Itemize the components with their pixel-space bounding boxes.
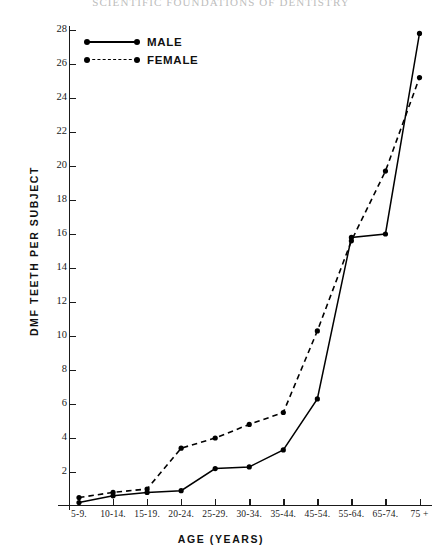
data-point bbox=[417, 75, 422, 80]
data-point bbox=[110, 493, 115, 498]
data-point bbox=[247, 422, 252, 427]
legend-label-female: FEMALE bbox=[147, 54, 198, 66]
data-point bbox=[281, 410, 286, 415]
data-point bbox=[315, 396, 320, 401]
series-points-female bbox=[76, 75, 422, 500]
data-point bbox=[247, 464, 252, 469]
data-point bbox=[213, 435, 218, 440]
data-point bbox=[383, 169, 388, 174]
x-axis-title: AGE (YEARS) bbox=[0, 533, 442, 545]
series-points-male bbox=[76, 31, 422, 505]
data-point bbox=[179, 446, 184, 451]
series-line-female bbox=[79, 78, 420, 498]
legend-item-female: FEMALE bbox=[84, 51, 198, 69]
data-point bbox=[383, 231, 388, 236]
line-chart: 246810121416182022242628 5-9.10-14.15-19… bbox=[0, 0, 442, 559]
y-axis-title: DMF TEETH PER SUBJECT bbox=[28, 121, 40, 381]
legend-swatch-solid-line-icon bbox=[84, 36, 140, 48]
legend-swatch-dashed-line-icon bbox=[84, 54, 140, 66]
legend-label-male: MALE bbox=[147, 36, 182, 48]
data-point bbox=[281, 447, 286, 452]
data-point bbox=[145, 490, 150, 495]
data-point bbox=[315, 328, 320, 333]
data-point bbox=[349, 235, 354, 240]
legend: MALE FEMALE bbox=[84, 33, 198, 69]
data-point bbox=[76, 495, 81, 500]
legend-item-male: MALE bbox=[84, 33, 198, 51]
data-point bbox=[417, 31, 422, 36]
chart-page: SCIENTIFIC FOUNDATIONS OF DENTISTRY 2468… bbox=[0, 0, 442, 559]
data-point bbox=[179, 488, 184, 493]
series-layer bbox=[0, 0, 442, 559]
series-line-male bbox=[79, 33, 420, 502]
data-point bbox=[76, 500, 81, 505]
data-point bbox=[213, 466, 218, 471]
